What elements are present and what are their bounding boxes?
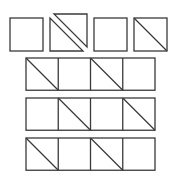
diagonal-line [26, 138, 58, 170]
upper-right-triangle [54, 14, 87, 47]
option-grid [26, 58, 155, 170]
square-shape [10, 18, 43, 51]
option-row-3 [26, 138, 155, 170]
diagonal-line [134, 18, 167, 51]
top-row-figures [10, 14, 167, 51]
figure-4 [134, 18, 167, 51]
puzzle-diagram [0, 0, 176, 185]
diagonal-line [91, 138, 123, 170]
figure-1 [10, 18, 43, 51]
diagonal-line [58, 98, 90, 130]
figure-2 [50, 14, 87, 51]
option-row-1 [26, 58, 155, 90]
option-row-2 [26, 98, 155, 130]
square-shape [94, 18, 127, 51]
figure-3 [94, 18, 127, 51]
diagonal-line [26, 58, 58, 90]
diagonal-line [123, 98, 155, 130]
lower-left-triangle [50, 18, 83, 51]
diagonal-line [91, 58, 123, 90]
